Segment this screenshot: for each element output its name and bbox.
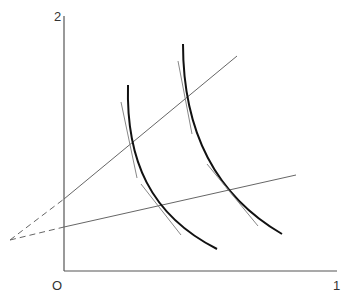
upper-ray-dashed	[10, 199, 64, 240]
x-axis-label: 1	[333, 278, 340, 293]
upper-ray	[64, 56, 237, 199]
tangent-inner-lower	[141, 184, 181, 235]
origin-label: O	[52, 278, 62, 293]
outer-curve	[183, 44, 282, 234]
diagram-canvas: 2 1 O	[0, 0, 343, 294]
y-axis-label: 2	[54, 9, 61, 24]
tangent-outer-lower	[207, 164, 258, 226]
